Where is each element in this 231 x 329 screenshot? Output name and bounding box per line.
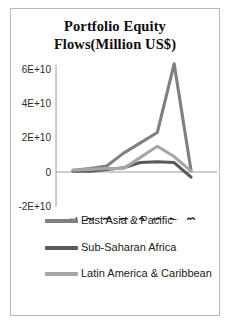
chart-title-line-1: Portfolio Equity xyxy=(11,17,219,35)
legend-color-swatch xyxy=(45,246,78,250)
chart-card: Portfolio Equity Flows(Million US$) 6E+1… xyxy=(10,8,220,316)
chart-legend: East Asia & PacificSub-Saharan AfricaLat… xyxy=(11,214,221,294)
line-chart-svg: 6E+104E+102E+100-2E+10 20012002200320042… xyxy=(11,55,221,220)
legend-color-swatch xyxy=(45,272,78,276)
y-axis-tick-label: 4E+10 xyxy=(22,98,52,109)
axis-lines xyxy=(56,65,217,206)
legend-item-label: Sub-Saharan Africa xyxy=(81,241,176,255)
y-axis-tick-label: 2E+10 xyxy=(22,132,52,143)
legend-item[interactable]: Sub-Saharan Africa xyxy=(11,241,221,255)
legend-item[interactable]: Latin America & Caribbean xyxy=(11,267,221,281)
y-axis-tick-labels: 6E+104E+102E+100-2E+10 xyxy=(18,64,51,212)
y-axis-tick-label: 6E+10 xyxy=(22,64,52,75)
legend-color-swatch xyxy=(45,219,78,223)
y-axis-tick-label: -2E+10 xyxy=(18,201,51,212)
legend-item-label: Latin America & Caribbean xyxy=(81,267,212,281)
legend-item[interactable]: East Asia & Pacific xyxy=(11,214,221,228)
legend-item-label: East Asia & Pacific xyxy=(81,214,173,228)
chart-title: Portfolio Equity Flows(Million US$) xyxy=(11,17,219,53)
chart-title-line-2: Flows(Million US$) xyxy=(11,35,219,53)
plot-area: 6E+104E+102E+100-2E+10 20012002200320042… xyxy=(11,55,221,220)
y-axis-tick-label: 0 xyxy=(45,167,51,178)
series-lines xyxy=(73,64,191,177)
